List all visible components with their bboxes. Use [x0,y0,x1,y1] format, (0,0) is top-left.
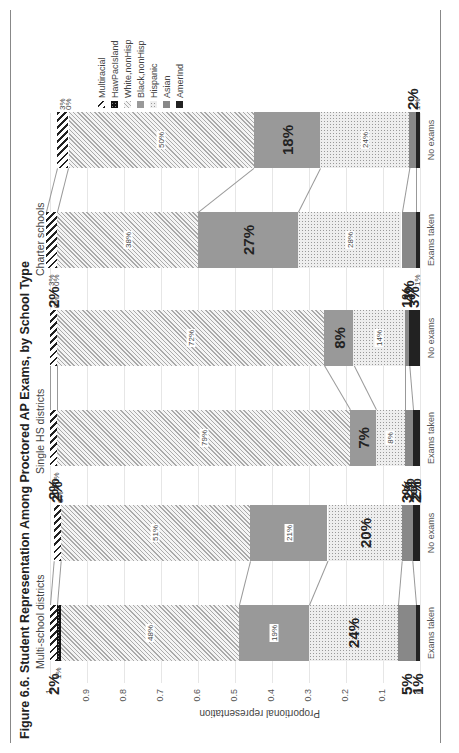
data-label: 18% [278,124,295,156]
y-tick-label: 0.2 [340,689,350,713]
gridline [161,113,162,683]
connector-line [198,168,254,213]
bar-segment-asian [402,212,417,268]
legend-label: Hispanic [149,63,159,98]
panel-title: Single HS districts [34,389,46,474]
connector-line [409,366,414,410]
legend-swatch-icon [98,101,105,108]
bar-segment-multiracial [46,212,57,268]
bar-segment-amerind [416,605,420,661]
bar-segment-multiracial [50,310,57,366]
bar-segment-asian [405,410,412,466]
connector-line [402,168,410,212]
bar-segment-asian [398,605,417,661]
bar-segment-hawpacisland [57,605,61,661]
legend-item-black-nonhisp: Black,nonHisp [134,39,147,108]
legend-swatch-icon [124,101,131,108]
legend-label: Multiracial [97,57,107,98]
data-label: 50% [157,131,166,149]
gridline [420,113,421,683]
gridline [346,113,347,683]
gridline [383,113,384,683]
y-tick-label: 0.1 [377,689,387,713]
data-label: 38% [123,231,132,249]
y-tick-label: 0.9 [81,689,91,713]
bar-segment-amerind [416,112,420,168]
legend-label: White,nonHisp [123,39,133,98]
connector-line [416,168,417,212]
bar-segment-multiracial [50,605,57,661]
legend-item-multiracial: Multiracial [95,39,108,108]
data-label: 2% [400,478,417,500]
legend-label: HawPacIsland [110,40,120,98]
data-label: 2% [45,673,62,695]
data-label: 20% [356,517,373,549]
data-label: 4% [400,280,417,302]
panel-title: Charter schools [34,202,46,276]
bar-segment-asian [402,505,413,561]
bar-segment-amerind [409,310,420,366]
gridline [309,113,310,683]
data-label: 21% [284,524,293,542]
bar-segment-amerind [416,212,420,268]
connector-line [57,168,69,212]
data-label: 24% [360,131,369,149]
gridline [272,113,273,683]
legend-item-white-nonhisp: White,nonHisp [121,39,134,108]
data-label: 48% [145,624,154,642]
data-label: 72% [186,329,195,347]
chart-plot-area: 00.10.20.30.40.50.60.70.80.91Multi-schoo… [0,0,459,753]
legend-swatch-icon [150,101,157,108]
legend-label: AmerInd [175,64,185,98]
panel-title: Multi-school districts [34,574,46,669]
bar-segment-multiracial [54,505,61,561]
connector-line [57,561,62,605]
data-label: 3% [47,274,56,286]
gridline [198,113,199,683]
gridline [235,113,236,683]
data-label: 79% [199,429,208,447]
connector-line [413,561,418,605]
bar-segment-multiracial [50,410,57,466]
bar-segment-amerind [413,410,420,466]
bar-segment-amerind [413,505,420,561]
category-label: No exams [426,100,436,180]
data-label: 2% [404,88,421,110]
bar-segment-asian [405,310,409,366]
data-label: 3% [58,98,67,110]
connector-line [405,366,406,410]
data-label: 7% [354,426,371,450]
category-label: Exams taken [426,398,436,478]
chart-legend: MultiracialHawPacIslandWhite,nonHispBlac… [95,39,186,108]
connector-line [57,366,58,410]
data-label: 8% [386,431,395,445]
legend-item-hawpacisland: HawPacIsland [108,39,121,108]
data-label: 5% [398,673,415,695]
legend-label: Black,nonHisp [136,40,146,98]
data-label: 24% [345,617,362,649]
data-label: 2% [45,286,62,308]
connector-line [353,366,376,410]
connector-line [239,561,251,605]
data-label: 14% [375,329,384,347]
legend-swatch-icon [137,101,144,108]
legend-item-asian: Asian [160,39,173,108]
data-label: 8% [330,326,347,350]
category-label: Exams taken [426,593,436,673]
data-label: 28% [345,231,354,249]
gridline [87,113,88,683]
data-label: 51% [151,524,160,542]
y-axis-label: Proportional representation [199,708,320,719]
legend-swatch-icon [163,101,170,108]
category-label: No exams [426,298,436,378]
legend-label: Asian [162,75,172,98]
legend-item-amerind: AmerInd [173,39,186,108]
legend-swatch-icon [176,101,183,108]
connector-line [46,168,58,212]
legend-item-hispanic: Hispanic [147,39,160,108]
connector-line [398,561,403,605]
bar-segment-multiracial [57,112,68,168]
data-label: 27% [239,224,256,256]
figure-canvas: Figure 6.6. Student Representation Among… [0,0,459,753]
bar-segment-asian [409,112,416,168]
